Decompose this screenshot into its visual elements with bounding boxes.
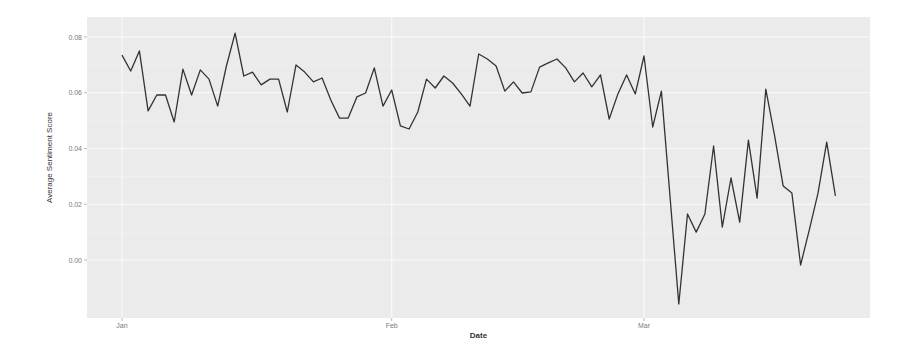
y-tick-label: 0.00 <box>68 257 82 264</box>
y-axis-title: Average Sentiment Score <box>45 111 54 203</box>
y-tick-label: 0.06 <box>68 89 82 96</box>
y-tick-label: 0.04 <box>68 145 82 152</box>
x-tick-label: Mar <box>638 322 651 329</box>
x-axis: JanFebMar <box>116 318 650 329</box>
x-axis-title: Date <box>470 331 488 340</box>
y-tick-label: 0.08 <box>68 34 82 41</box>
line-chart: 0.000.020.040.060.08 JanFebMar Date Aver… <box>0 0 914 345</box>
x-tick-label: Jan <box>116 322 127 329</box>
y-tick-label: 0.02 <box>68 201 82 208</box>
y-axis: 0.000.020.040.060.08 <box>68 34 87 264</box>
x-tick-label: Feb <box>386 322 398 329</box>
